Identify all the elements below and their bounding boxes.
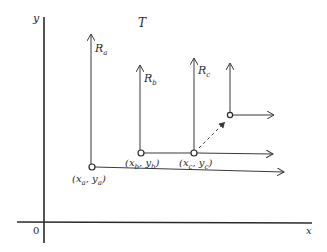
origin-label: 0 [33, 226, 39, 236]
y-axis-label: y [33, 13, 39, 24]
frame-d [227, 63, 274, 118]
region-label-t: T [138, 17, 146, 29]
diagram-canvas [0, 0, 327, 252]
frame-a [89, 34, 284, 172]
frame-a-axis-label: Ra [95, 43, 107, 57]
frame-a-origin-point [89, 164, 95, 170]
frame-b-point-label: (xb, yb) [125, 158, 159, 171]
frame-d-origin-point [227, 112, 232, 117]
dashed-transform-arrow [199, 122, 225, 148]
frame-a-point-label: (xa, ya) [72, 174, 106, 187]
frame-c-point-label: (xc, yc) [179, 158, 212, 171]
frame-c-horizontal-axis [197, 153, 273, 154]
frame-c-axis-label: Rc [198, 65, 210, 79]
x-axis [17, 222, 312, 223]
x-axis-label: x [306, 226, 312, 236]
frame-c-origin-point [191, 150, 197, 156]
frame-b-origin-point [138, 150, 144, 156]
coordinate-frames-diagram: y x 0 T Ra Rb Rc (xa, ya) (xb, yb) (xc, … [0, 0, 327, 252]
frame-b-axis-label: Rb [144, 73, 157, 87]
